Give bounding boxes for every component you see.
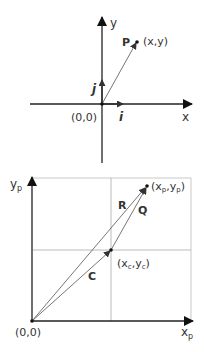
vector-r [32, 188, 145, 321]
coordinate-diagrams: y x P (x,y) (0,0) j i yp xp (0,0) R Q C … [0, 0, 204, 352]
bottom-origin-point [30, 319, 34, 323]
top-diagram: y x P (x,y) (0,0) j i [30, 16, 192, 163]
unit-vector-i-label: i [119, 110, 124, 124]
point-p-name: P [122, 36, 130, 49]
vector-r-label: R [118, 199, 127, 212]
unit-vector-j-label: j [90, 82, 97, 96]
vector-q [111, 188, 146, 250]
point-c-coords: (xc,yc) [117, 257, 150, 271]
point-p-bottom-coords: (xp,yp) [151, 180, 185, 194]
point-p [135, 40, 139, 44]
top-x-axis-label: x [182, 110, 189, 124]
vector-c [32, 251, 110, 321]
bottom-x-axis-label: xp [181, 325, 193, 341]
top-y-axis-label: y [110, 16, 117, 30]
bottom-y-axis-label: yp [10, 177, 22, 193]
point-p-coords: (x,y) [143, 35, 168, 48]
origin-point [100, 102, 104, 106]
bottom-origin-label: (0,0) [15, 326, 41, 339]
vector-c-label: C [88, 270, 96, 283]
point-c [109, 248, 113, 252]
top-origin-label: (0,0) [71, 111, 97, 124]
point-p-bottom [145, 184, 149, 188]
vector-p [102, 43, 136, 104]
bottom-diagram: yp xp (0,0) R Q C (xp,yp) (xc,yc) [10, 177, 193, 341]
vector-q-label: Q [138, 204, 147, 217]
